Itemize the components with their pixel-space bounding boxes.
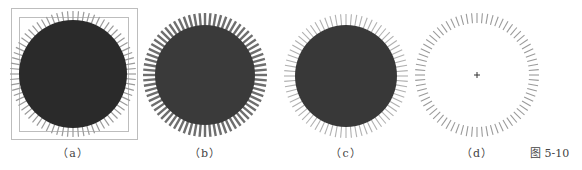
panel-label-d: （d）: [457, 144, 497, 160]
panel-d: （d）: [0, 0, 560, 170]
tick-ring-figure-d: [0, 0, 560, 140]
figure-caption: 图 5-10: [530, 144, 569, 160]
